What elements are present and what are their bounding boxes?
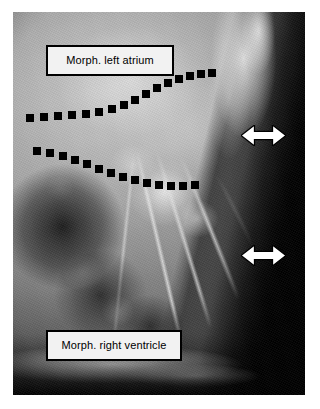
dash-marker: [131, 176, 139, 184]
dash-marker: [59, 152, 67, 160]
dash-marker: [197, 70, 205, 78]
label-morph-left-atrium-text: Morph. left atrium: [66, 55, 153, 66]
label-morph-right-ventricle: Morph. right ventricle: [46, 330, 182, 361]
dash-marker: [120, 101, 128, 109]
dash-marker: [143, 179, 151, 187]
dash-marker: [119, 173, 127, 181]
dash-marker: [95, 108, 103, 116]
dash-marker: [71, 156, 79, 164]
dash-marker: [108, 105, 116, 113]
dash-marker: [142, 90, 150, 98]
dash-marker: [33, 147, 41, 155]
dash-marker: [131, 96, 139, 104]
dash-marker: [208, 69, 216, 77]
dash-marker: [191, 181, 199, 189]
dash-marker: [175, 75, 183, 83]
specimen-photograph: Morph. left atrium Morph. right ventricl…: [13, 12, 305, 395]
dash-marker: [164, 79, 172, 87]
label-morph-left-atrium: Morph. left atrium: [46, 45, 174, 76]
label-morph-right-ventricle-text: Morph. right ventricle: [62, 340, 167, 351]
dash-marker: [186, 72, 194, 80]
dash-marker: [153, 84, 161, 92]
dash-marker: [155, 181, 163, 189]
dash-marker: [46, 149, 54, 157]
dash-marker: [167, 182, 175, 190]
dash-marker: [54, 112, 62, 120]
arrow-upper-icon: [241, 125, 286, 146]
dash-marker: [95, 165, 103, 173]
dash-marker: [82, 110, 90, 118]
dash-marker: [107, 169, 115, 177]
dash-marker: [179, 182, 187, 190]
arrow-lower-icon: [241, 245, 286, 266]
dash-marker: [26, 114, 34, 122]
dash-marker: [83, 160, 91, 168]
dash-marker: [68, 111, 76, 119]
dash-marker: [40, 113, 48, 121]
figure-container: Morph. left atrium Morph. right ventricl…: [0, 0, 320, 409]
